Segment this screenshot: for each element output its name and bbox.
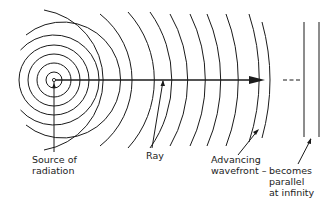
wavefront-label: Advancing wavefront – bbox=[211, 154, 266, 176]
source-point bbox=[52, 78, 55, 81]
source-label-line1: Source of bbox=[32, 154, 77, 165]
wavefront-label-line2: wavefront – bbox=[211, 165, 266, 176]
source-label-line2: radiation bbox=[32, 165, 77, 176]
source-label: Source of radiation bbox=[32, 154, 77, 176]
wavefront-label-line1: Advancing bbox=[211, 154, 266, 165]
source-leader-arrow-icon bbox=[52, 83, 56, 88]
parallel-label-line2: parallel bbox=[269, 176, 314, 187]
ray-leader-arrow-icon bbox=[161, 80, 166, 86]
ray-arrowhead-icon bbox=[249, 76, 265, 84]
ray-label: Ray bbox=[146, 150, 164, 161]
parallel-label-line1: becomes bbox=[269, 165, 314, 176]
parallel-label: becomes parallel at infinity bbox=[269, 165, 314, 198]
parallel-leader-arrow-icon bbox=[307, 138, 311, 144]
wavefront-leader-arrow-icon bbox=[253, 129, 259, 135]
parallel-label-line3: at infinity bbox=[269, 187, 314, 198]
